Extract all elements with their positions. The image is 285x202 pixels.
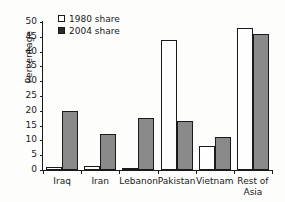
x-axis-category-label-line: Pakistan: [158, 176, 196, 186]
bar-group: [196, 22, 234, 170]
bar: [46, 167, 62, 170]
y-axis-tick-label: 5: [31, 149, 37, 159]
plot-area: [43, 22, 272, 170]
x-axis-category-label-line: Rest of: [237, 176, 268, 186]
x-axis-category-label-line: Lebanon: [119, 176, 158, 186]
bar: [138, 118, 154, 170]
legend-item: 2004 share: [58, 25, 120, 36]
x-axis-category-label: Iran: [81, 176, 119, 187]
filled-square-icon: [58, 27, 65, 34]
y-axis-tick-label: 45: [26, 31, 37, 41]
bar-group: [43, 22, 81, 170]
bar: [161, 40, 177, 170]
y-axis-tick-label: 10: [26, 134, 37, 144]
y-axis-tick-label: 50: [26, 16, 37, 26]
x-axis-tick-mark: [81, 170, 82, 174]
bar: [237, 28, 253, 170]
bar-group-bars: [234, 22, 272, 170]
x-axis-category-label: Rest ofAsia: [234, 176, 272, 198]
y-axis-tick-label: 25: [26, 90, 37, 100]
bar-group: [158, 22, 196, 170]
y-axis-tick-label: 20: [26, 105, 37, 115]
x-axis-category-label: Pakistan: [158, 176, 196, 187]
x-axis-category-label: Iraq: [43, 176, 81, 187]
x-axis-category-label: Lebanon: [119, 176, 157, 187]
x-axis-tick-mark: [158, 170, 159, 174]
legend-item-label: 1980 share: [69, 14, 120, 24]
x-axis-category-label-line: Iraq: [53, 176, 71, 186]
bar-group-bars: [119, 22, 157, 170]
x-axis-category-label-line: Iran: [91, 176, 109, 186]
bar-group: [81, 22, 119, 170]
y-axis-tick-label: 15: [26, 120, 37, 130]
bar-group: [119, 22, 157, 170]
open-square-icon: [58, 15, 65, 22]
bar-group-bars: [81, 22, 119, 170]
bar: [100, 134, 116, 170]
bar: [84, 166, 100, 170]
bar-group: [234, 22, 272, 170]
y-axis-tick-label: 30: [26, 75, 37, 85]
bar: [199, 146, 215, 170]
bar: [215, 137, 231, 170]
bar: [253, 34, 269, 170]
bar: [122, 168, 138, 170]
bar: [62, 111, 78, 170]
bar-group-bars: [43, 22, 81, 170]
x-axis-category-label-line: Asia: [234, 187, 272, 198]
x-axis-tick-mark: [196, 170, 197, 174]
x-axis-tick-mark: [272, 170, 273, 174]
x-axis-tick-mark: [119, 170, 120, 174]
x-axis-category-label-line: Vietnam: [196, 176, 234, 186]
bar-group-bars: [196, 22, 234, 170]
bar: [177, 121, 193, 170]
x-axis-tick-mark: [234, 170, 235, 174]
x-axis-tick-mark: [43, 170, 44, 174]
bar-group-bars: [158, 22, 196, 170]
y-axis-tick-label: 35: [26, 60, 37, 70]
y-axis-tick-label: 0: [31, 164, 37, 174]
legend-item: 1980 share: [58, 13, 120, 24]
chart-legend: 1980 share2004 share: [58, 13, 120, 37]
y-axis-tick-label: 40: [26, 46, 37, 56]
x-axis-category-label: Vietnam: [196, 176, 234, 187]
bar-chart-figure: Percentage 05101520253035404550 IraqIran…: [0, 0, 285, 202]
legend-item-label: 2004 share: [69, 26, 120, 36]
